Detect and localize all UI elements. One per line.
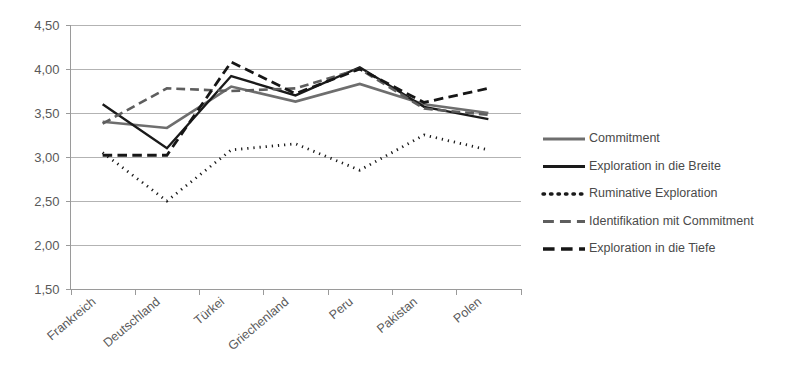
- legend-label: Exploration in die Breite: [589, 159, 721, 173]
- legend: CommitmentExploration in die BreiteRumin…: [543, 131, 754, 255]
- y-axis-tick-label: 4,00: [34, 62, 59, 77]
- y-axis-tick-label: 1,50: [34, 282, 59, 297]
- y-axis-tick-marks: [66, 26, 71, 290]
- line-chart: 4,504,003,503,002,502,001,50 FrankreichD…: [0, 0, 799, 372]
- x-axis-tick-label: Deutschland: [101, 295, 163, 350]
- legend-label: Commitment: [589, 131, 660, 145]
- x-axis-tick-label: Frankreich: [44, 295, 98, 344]
- y-axis-tick-label: 4,50: [34, 18, 59, 33]
- data-series: [103, 62, 489, 201]
- legend-label: Exploration in die Tiefe: [589, 241, 716, 255]
- y-axis-tick-label: 3,50: [34, 106, 59, 121]
- y-axis-tick-label: 2,00: [34, 238, 59, 253]
- x-axis-tick-label: Türkei: [192, 295, 228, 328]
- y-axis-tick-label: 3,00: [34, 150, 59, 165]
- legend-label: Ruminative Exploration: [589, 186, 718, 200]
- x-axis-tick-label: Pakistan: [374, 295, 420, 337]
- y-axis-labels: 4,504,003,503,002,502,001,50: [34, 18, 59, 297]
- legend-label: Identifikation mit Commitment: [589, 214, 754, 228]
- x-axis-labels: FrankreichDeutschlandTürkeiGriechenlandP…: [44, 295, 484, 354]
- x-axis-tick-label: Polen: [451, 295, 485, 326]
- x-axis-tick-label: Griechenland: [225, 295, 291, 354]
- chart-canvas: 4,504,003,503,002,502,001,50 FrankreichD…: [0, 0, 799, 372]
- x-axis-tick-label: Peru: [326, 295, 355, 323]
- gridlines: [71, 26, 521, 290]
- y-axis-tick-label: 2,50: [34, 194, 59, 209]
- series-line: [103, 84, 489, 128]
